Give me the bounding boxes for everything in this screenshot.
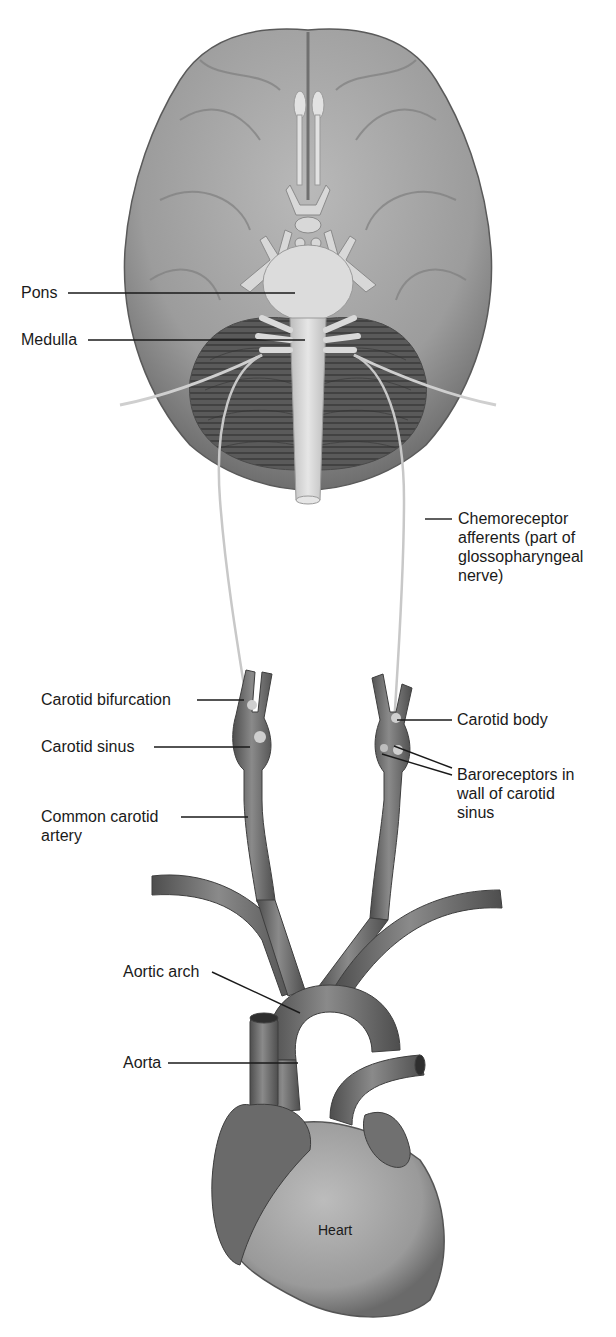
label-heart: Heart bbox=[318, 1221, 352, 1240]
anatomy-figure: Pons Medulla Chemoreceptor afferents (pa… bbox=[0, 0, 616, 1337]
label-medulla: Medulla bbox=[21, 330, 77, 349]
brain bbox=[120, 29, 496, 504]
label-pons: Pons bbox=[21, 283, 57, 302]
heart bbox=[212, 1104, 444, 1317]
label-carotid-sinus: Carotid sinus bbox=[41, 737, 134, 756]
medulla bbox=[290, 318, 326, 500]
label-baroreceptors: Baroreceptors in wall of carotid sinus bbox=[457, 765, 577, 822]
aortic-arch-branches bbox=[152, 875, 502, 1125]
label-aortic-arch: Aortic arch bbox=[123, 962, 199, 981]
label-aorta: Aorta bbox=[123, 1053, 161, 1072]
label-carotid-bifurcation: Carotid bifurcation bbox=[41, 690, 171, 709]
carotid-arteries bbox=[233, 670, 412, 920]
anatomy-illustration bbox=[0, 0, 616, 1337]
pons bbox=[263, 245, 353, 321]
label-common-carotid-artery: Common carotid artery bbox=[41, 807, 181, 845]
label-chemoreceptor-afferents: Chemoreceptor afferents (part of glossop… bbox=[458, 509, 608, 585]
label-carotid-body: Carotid body bbox=[457, 710, 548, 729]
aortic-arch bbox=[267, 985, 400, 1060]
